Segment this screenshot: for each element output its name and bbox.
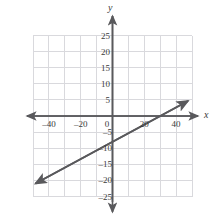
axis-lines <box>27 16 198 212</box>
y-tick-label-neg10: –10 <box>99 144 113 153</box>
y-tick-label-25: 25 <box>101 31 110 40</box>
y-axis-label: y <box>108 3 112 13</box>
y-tick-label-20: 20 <box>101 47 110 56</box>
y-tick-label-5: 5 <box>106 95 111 104</box>
x-tick-label-40: 40 <box>172 120 181 129</box>
y-tick-label-neg5: –5 <box>103 128 112 137</box>
x-tick-label-20: 20 <box>140 120 149 129</box>
y-tick-label-neg15: –15 <box>99 160 113 169</box>
y-tick-label-15: 15 <box>101 63 110 72</box>
coordinate-plane-figure: –40 –20 0 20 40 25 20 15 10 5 –5 –10 –15… <box>0 0 218 222</box>
x-axis-label: x <box>204 110 208 120</box>
y-tick-label-neg20: –20 <box>99 176 113 185</box>
y-tick-label-neg25: –25 <box>99 192 113 201</box>
x-tick-label-neg20: –20 <box>74 120 88 129</box>
x-tick-label-neg40: –40 <box>42 120 56 129</box>
y-tick-label-10: 10 <box>101 79 110 88</box>
